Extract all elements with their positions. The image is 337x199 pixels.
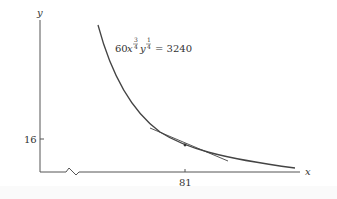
svg-text:60: 60 bbox=[115, 43, 128, 54]
y-tick-label-16: 16 bbox=[24, 134, 37, 145]
svg-text:3: 3 bbox=[134, 36, 138, 43]
svg-text:1: 1 bbox=[147, 36, 151, 43]
svg-text:4: 4 bbox=[147, 43, 151, 50]
y-axis-label: y bbox=[36, 7, 43, 18]
tangent-point bbox=[184, 144, 187, 147]
equation-label: 60 x 3 4 y 1 4 = 3240 bbox=[115, 36, 192, 54]
tangent-line bbox=[150, 128, 228, 161]
x-axis-label: x bbox=[305, 166, 311, 177]
svg-text:x: x bbox=[127, 43, 133, 54]
svg-text:= 3240: = 3240 bbox=[155, 43, 192, 54]
chart-plot-area: y x 16 81 60 x 3 4 y 1 4 = 3240 bbox=[0, 0, 337, 199]
x-axis bbox=[40, 168, 300, 175]
svg-text:4: 4 bbox=[134, 43, 138, 50]
x-tick-label-81: 81 bbox=[179, 177, 192, 188]
svg-text:y: y bbox=[139, 43, 146, 54]
